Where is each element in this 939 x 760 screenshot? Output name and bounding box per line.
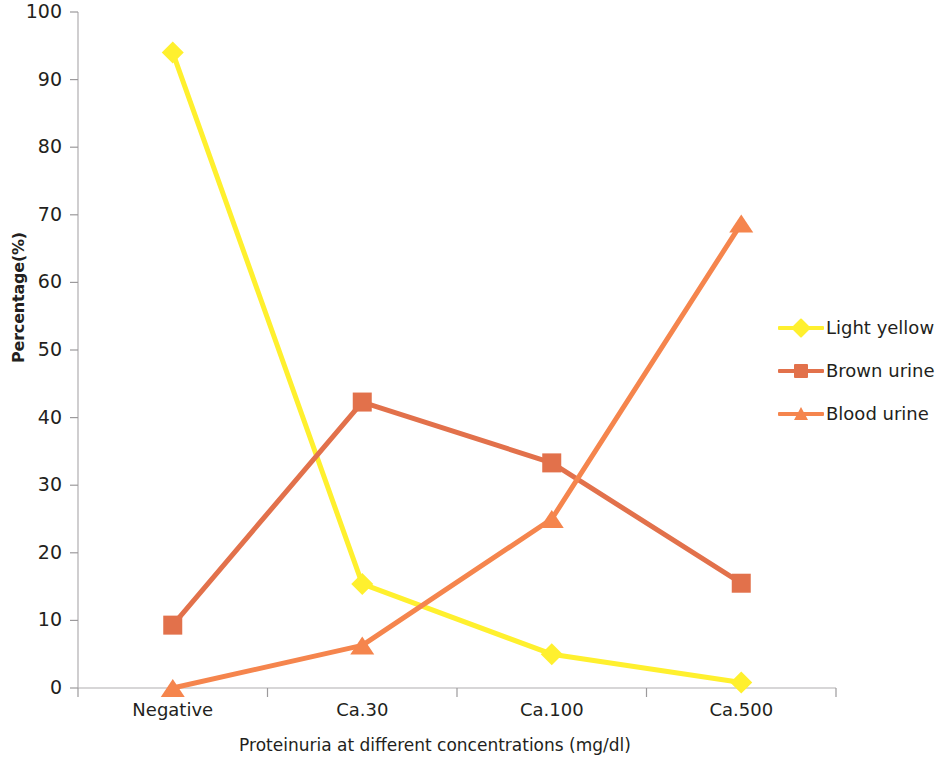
x-axis-tick-label: Ca.500	[651, 700, 831, 720]
legend-item[interactable]: Light yellow	[778, 306, 939, 349]
legend-label: Blood urine	[824, 404, 929, 424]
data-point-marker-diamond	[351, 573, 373, 595]
legend: Light yellowBrown urineBlood urine	[778, 306, 939, 435]
legend-marker-square	[794, 364, 808, 378]
x-axis-title: Proteinuria at different concentrations …	[70, 735, 800, 755]
x-axis-tick-label: Ca.100	[462, 700, 642, 720]
series-blood-urine	[161, 215, 754, 697]
data-point-marker-square	[353, 393, 372, 412]
legend-label: Brown urine	[824, 361, 935, 381]
legend-swatch	[778, 360, 824, 382]
data-point-marker-diamond	[730, 672, 752, 694]
legend-marker-diamond	[791, 318, 811, 338]
legend-label: Light yellow	[824, 318, 934, 338]
data-point-marker-triangle	[540, 510, 564, 528]
data-point-marker-triangle	[729, 215, 753, 233]
legend-swatch	[778, 317, 824, 339]
legend-item[interactable]: Blood urine	[778, 392, 939, 435]
legend-marker-triangle	[794, 407, 808, 420]
legend-swatch	[778, 403, 824, 425]
x-axis-tick-label: Negative	[83, 700, 263, 720]
data-point-marker-square	[732, 574, 751, 593]
data-point-marker-square	[542, 453, 561, 472]
series-light-yellow	[162, 42, 753, 694]
x-axis-tick-label: Ca.30	[272, 700, 452, 720]
legend-item[interactable]: Brown urine	[778, 349, 939, 392]
data-point-marker-diamond	[162, 42, 184, 64]
data-point-marker-diamond	[541, 643, 563, 665]
data-point-marker-square	[163, 616, 182, 635]
series-line	[173, 402, 742, 625]
series-brown-urine	[163, 393, 751, 635]
series-line	[173, 53, 742, 683]
line-chart: Percentage(%) 0102030405060708090100 Neg…	[0, 0, 939, 760]
